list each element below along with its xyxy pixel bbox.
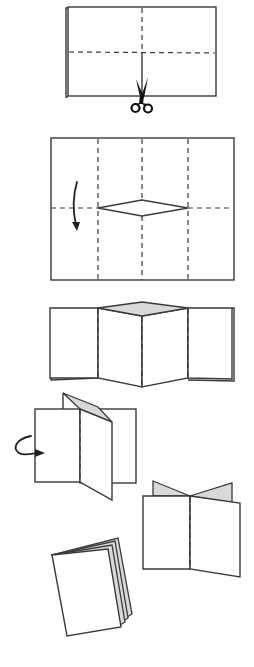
finished-booklet: [52, 549, 121, 636]
left-front-panel: [35, 409, 80, 482]
right-page: [190, 496, 240, 577]
left-page: [143, 496, 190, 569]
step-3-folded-strip: [50, 302, 234, 387]
step-4-partially-folded: [35, 393, 136, 500]
center-left-panel: [98, 308, 142, 387]
step-6-finished-booklet: [52, 538, 132, 636]
right-panel: [188, 308, 232, 379]
step-1-folded-sheet: [66, 7, 216, 97]
step-5-cross-pages: [143, 481, 240, 577]
left-shaded-flap: [153, 481, 190, 496]
center-right-panel: [142, 308, 188, 387]
step-2-open-sheet: [51, 138, 234, 280]
booklet-folding-diagram: Folding an eight-page mini booklet from …: [0, 0, 254, 667]
left-panel: [50, 308, 98, 378]
angled-page-panel: [80, 409, 112, 500]
